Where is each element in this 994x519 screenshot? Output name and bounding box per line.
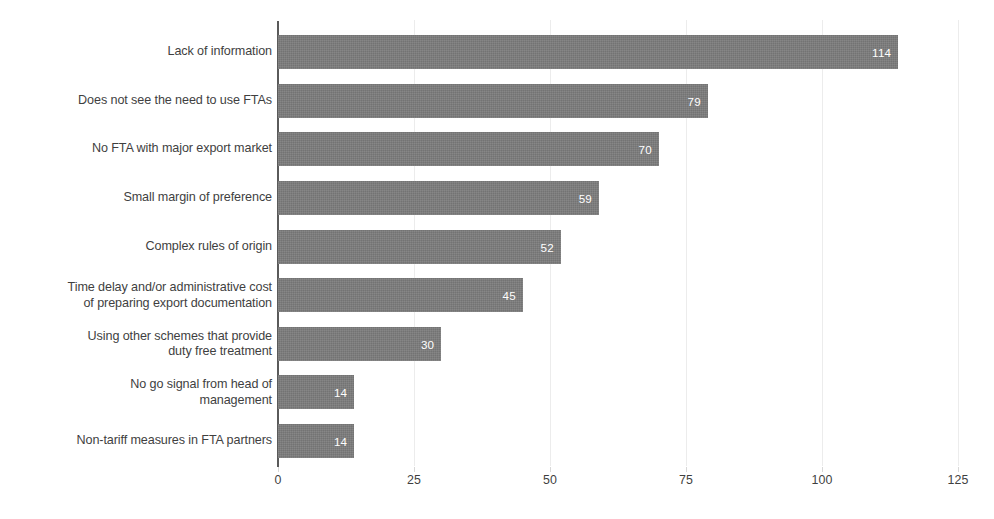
bar[interactable]: 79: [278, 84, 708, 118]
bar-value-label: 79: [688, 94, 701, 107]
xtick-mark-75: [686, 467, 687, 472]
category-label: Lack of information: [0, 45, 272, 61]
xtick-label-100: 100: [812, 473, 833, 487]
category-label: No FTA with major export market: [0, 142, 272, 158]
bar-container: 45: [278, 278, 523, 312]
bar-value-label: 14: [334, 386, 347, 399]
bar-row: Complex rules of origin 52: [0, 222, 994, 271]
xtick-mark-125: [958, 467, 959, 472]
bar-row: Using other schemes that provide duty fr…: [0, 320, 994, 369]
bar-row: No go signal from head of management 14: [0, 368, 994, 417]
bar-row: Lack of information 114: [0, 28, 994, 77]
category-label: Using other schemes that provide duty fr…: [0, 328, 272, 359]
bar-container: 59: [278, 181, 599, 215]
bar-value-label: 59: [579, 192, 592, 205]
bar-value-label: 70: [639, 143, 652, 156]
bar-container: 14: [278, 375, 354, 409]
bar-row: Does not see the need to use FTAs 79: [0, 77, 994, 126]
bar[interactable]: 14: [278, 424, 354, 458]
bar-value-label: 52: [541, 240, 554, 253]
bar-container: 30: [278, 327, 441, 361]
bar-row: Small margin of preference 59: [0, 174, 994, 223]
category-label: Does not see the need to use FTAs: [0, 93, 272, 109]
bar[interactable]: 59: [278, 181, 599, 215]
xtick-label-75: 75: [679, 473, 693, 487]
xtick-label-0: 0: [275, 473, 282, 487]
xtick-mark-25: [414, 467, 415, 472]
bar[interactable]: 45: [278, 278, 523, 312]
xtick-label-50: 50: [543, 473, 557, 487]
xtick-label-125: 125: [948, 473, 969, 487]
bar-value-label: 45: [503, 289, 516, 302]
bar-chart: Lack of information 114 Does not see the…: [0, 0, 994, 519]
xtick-mark-50: [550, 467, 551, 472]
xtick-label-25: 25: [407, 473, 421, 487]
bar[interactable]: 114: [278, 35, 898, 69]
bar-row: No FTA with major export market 70: [0, 125, 994, 174]
bar-row: Non-tariff measures in FTA partners 14: [0, 417, 994, 466]
category-label: Time delay and/or administrative cost of…: [0, 280, 272, 311]
category-label: Complex rules of origin: [0, 239, 272, 255]
category-label: No go signal from head of management: [0, 377, 272, 408]
bar[interactable]: 52: [278, 230, 561, 264]
xtick-mark-100: [822, 467, 823, 472]
category-label: Non-tariff measures in FTA partners: [0, 433, 272, 449]
bar-container: 79: [278, 84, 708, 118]
bar-value-label: 14: [334, 435, 347, 448]
bar[interactable]: 70: [278, 132, 659, 166]
bar-value-label: 114: [872, 46, 891, 59]
bar-container: 14: [278, 424, 354, 458]
bar-container: 70: [278, 132, 659, 166]
bar[interactable]: 30: [278, 327, 441, 361]
bar-value-label: 30: [421, 337, 434, 350]
bar-container: 114: [278, 35, 898, 69]
bar-row: Time delay and/or administrative cost of…: [0, 271, 994, 320]
category-label: Small margin of preference: [0, 190, 272, 206]
xtick-mark-0: [278, 467, 279, 472]
bar[interactable]: 14: [278, 375, 354, 409]
bar-container: 52: [278, 230, 561, 264]
